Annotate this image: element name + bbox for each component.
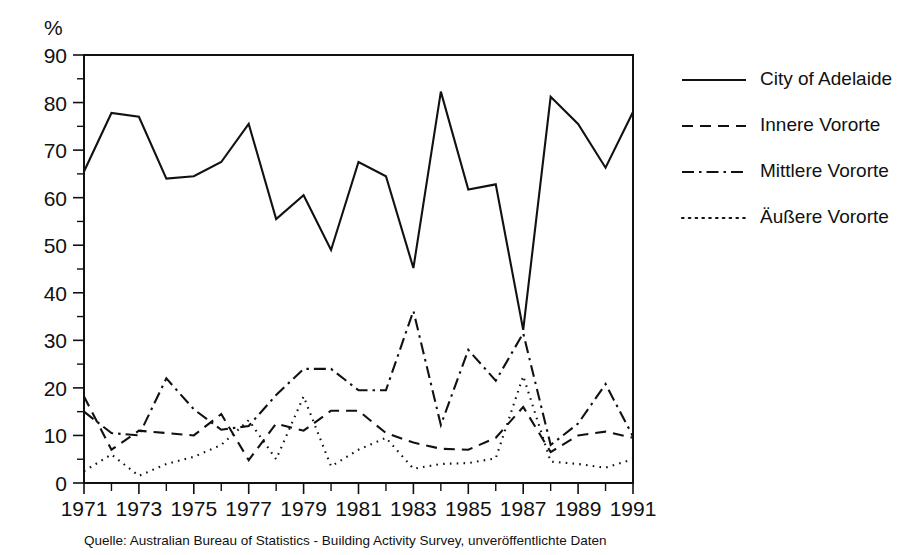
legend-label-3: Äußere Vororte [760, 206, 889, 227]
y-tick-label: 0 [55, 472, 67, 495]
source-note: Quelle: Australian Bureau of Statistics … [84, 533, 607, 548]
x-tick-label: 1983 [390, 497, 437, 520]
y-tick-label: 90 [44, 44, 67, 67]
y-tick-label: 60 [44, 187, 67, 210]
x-tick-label: 1991 [610, 497, 657, 520]
y-axis-unit-label: % [44, 16, 63, 39]
y-tick-label: 20 [44, 377, 67, 400]
x-tick-label: 1985 [445, 497, 492, 520]
x-tick-label: 1987 [500, 497, 547, 520]
x-tick-label: 1977 [225, 497, 272, 520]
legend-label-1: Innere Vororte [760, 114, 880, 135]
y-tick-label: 50 [44, 234, 67, 257]
x-tick-label: 1989 [555, 497, 602, 520]
y-tick-label: 70 [44, 139, 67, 162]
chart-figure: % 0102030405060708090 197119731975197719… [0, 0, 922, 555]
y-tick-label: 40 [44, 282, 67, 305]
y-tick-label: 30 [44, 329, 67, 352]
x-tick-label: 1971 [61, 497, 108, 520]
y-tick-label: 10 [44, 424, 67, 447]
x-tick-label: 1979 [280, 497, 327, 520]
x-tick-label: 1981 [335, 497, 382, 520]
legend-label-2: Mittlere Vororte [760, 160, 889, 181]
legend-label-0: City of Adelaide [760, 68, 892, 89]
x-tick-label: 1973 [116, 497, 163, 520]
line-chart: % 0102030405060708090 197119731975197719… [0, 0, 922, 555]
y-tick-label: 80 [44, 92, 67, 115]
x-tick-label: 1975 [170, 497, 217, 520]
